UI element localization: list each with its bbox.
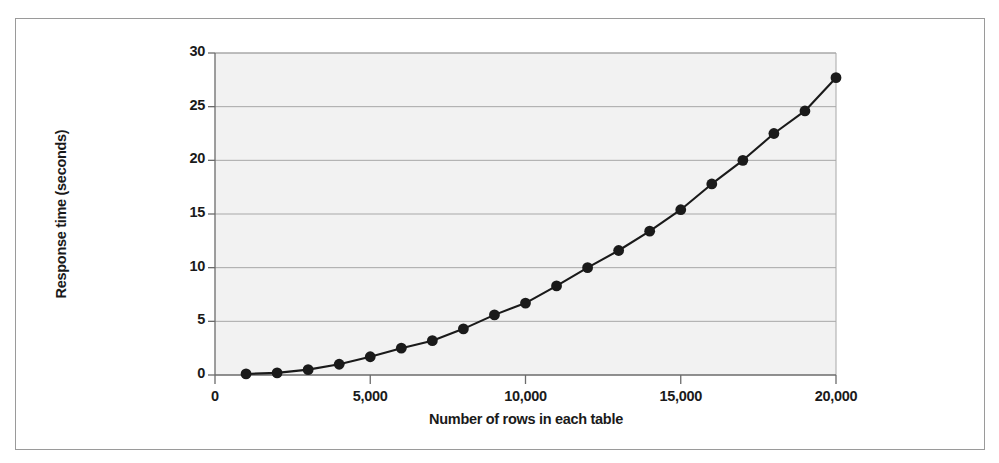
x-axis-title: Number of rows in each table xyxy=(215,411,837,427)
x-tick-label: 20,000 xyxy=(791,388,881,404)
chart-figure: 051015202530 05,00010,00015,00020,000 Re… xyxy=(0,0,999,463)
y-axis-title: Response time (seconds) xyxy=(53,84,69,344)
x-tick-label: 0 xyxy=(170,388,260,404)
x-tick-label: 15,000 xyxy=(636,388,726,404)
x-tick-label: 5,000 xyxy=(325,388,415,404)
x-axis-tick-labels: 05,00010,00015,00020,000 xyxy=(0,0,999,463)
x-tick-label: 10,000 xyxy=(481,388,571,404)
